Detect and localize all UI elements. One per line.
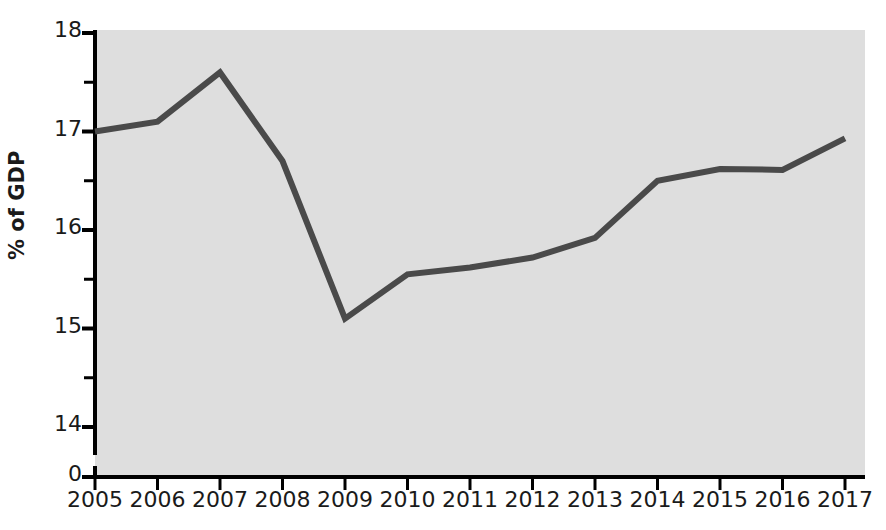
x-tick-label-2011: 2011: [435, 487, 505, 512]
x-tick-label-2006: 2006: [123, 487, 193, 512]
plot-background: [95, 30, 865, 477]
x-tick-label-2017: 2017: [810, 487, 880, 512]
x-tick-label-2009: 2009: [310, 487, 380, 512]
x-tick-label-2016: 2016: [748, 487, 818, 512]
plot-area: [0, 0, 886, 530]
line-chart: % of GDP 18171615140 2005200620072008200…: [0, 0, 886, 530]
x-tick-label-2008: 2008: [248, 487, 318, 512]
x-tick-label-2007: 2007: [185, 487, 255, 512]
x-tick-label-2015: 2015: [685, 487, 755, 512]
x-tick-label-2012: 2012: [498, 487, 568, 512]
x-tick-label-2005: 2005: [60, 487, 130, 512]
x-tick-label-2014: 2014: [623, 487, 693, 512]
x-tick-label-2013: 2013: [560, 487, 630, 512]
x-tick-label-2010: 2010: [373, 487, 443, 512]
